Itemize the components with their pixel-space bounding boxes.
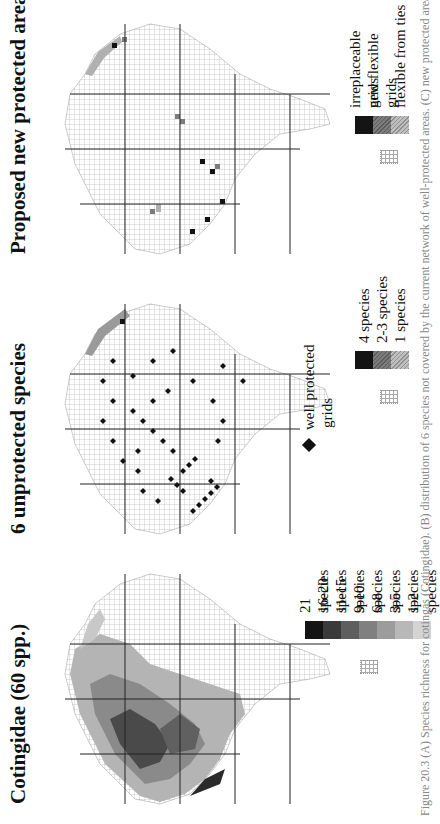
panel-c: Proposed new protected areas	[0, 0, 420, 274]
legend-label: flexible from ties	[391, 5, 409, 108]
legend-swatch	[355, 116, 373, 134]
legend-label: 4 species	[355, 288, 373, 343]
unprotected-species-map	[40, 274, 340, 554]
legend-label: grids	[318, 398, 336, 428]
figure-caption: Figure 20.3 (A) Species richness for cot…	[418, 0, 433, 816]
legend-swatch	[395, 621, 413, 639]
panel-b: 6 unprotected species	[0, 274, 420, 554]
panel-b-title: 6 unprotected species	[6, 343, 31, 534]
legend-swatch	[359, 621, 377, 639]
legend-swatch	[391, 351, 409, 369]
well-protected-legend: well protected grids	[300, 345, 336, 454]
panel-c-legend: irreplaceable grids new flexible grids f…	[355, 0, 409, 134]
legend-swatch	[355, 351, 373, 369]
legend-swatch	[377, 621, 395, 639]
legend-swatch	[391, 116, 409, 134]
richness-map	[40, 554, 340, 824]
panel-a-legend: 21 species 16-20 species 11-15 species 9…	[305, 554, 431, 639]
panel-c-title: Proposed new protected areas	[6, 0, 31, 254]
grid-cell-key-icon	[380, 150, 398, 164]
legend-swatch	[323, 621, 341, 639]
legend-swatch	[373, 351, 391, 369]
panel-a-title: Cotingidae (60 spp.)	[6, 624, 31, 804]
legend-label: 1 species	[391, 288, 409, 343]
panel-a: Cotingidae (60 spp.) 21 species	[0, 554, 420, 824]
diamond-marker-icon	[302, 438, 316, 452]
legend-swatch	[305, 621, 323, 639]
grid-cell-key-icon	[380, 390, 398, 404]
legend-label: well protected	[300, 345, 318, 430]
panel-b-legend: 4 species 2-3 species 1 species	[355, 276, 409, 369]
legend-swatch	[341, 621, 359, 639]
legend-swatch	[373, 116, 391, 134]
grid-cell-key-icon	[360, 660, 378, 674]
legend-label: 2-3 species	[373, 276, 391, 343]
proposed-areas-map	[40, 0, 340, 274]
